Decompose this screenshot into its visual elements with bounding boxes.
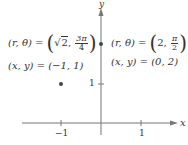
y-tick-label-1: 1: [89, 79, 95, 88]
sqrt-symbol: √2: [54, 38, 68, 48]
point-neg1-1: [59, 82, 63, 86]
denominator: 2: [171, 44, 178, 52]
point1-cartesian-label: (x, y) = (−1, 1): [8, 61, 83, 71]
point-0-2: [99, 42, 103, 46]
x-tick-label-1: 1: [139, 129, 145, 138]
point2-theta-fraction: π 2: [171, 35, 178, 52]
denominator: 4: [75, 44, 87, 52]
x-axis-label: x: [180, 118, 186, 128]
right-paren: ): [89, 33, 97, 53]
left-paren: (: [46, 33, 54, 53]
comma: ,: [68, 38, 74, 48]
y-axis-arrow-icon: [99, 8, 104, 16]
point1-polar-label: (r, θ) = ( √2 , 3π 4 ): [8, 33, 97, 53]
right-paren: ): [179, 33, 187, 53]
point1-theta-fraction: 3π 4: [75, 35, 87, 52]
point2-cartesian-label: (x, y) = (0, 2): [111, 57, 178, 67]
point1-polar-lhs: (r, θ) =: [8, 38, 43, 48]
x-tick-label-neg1: −1: [55, 129, 68, 138]
comma: ,: [164, 38, 170, 48]
polar-coordinate-diagram: y x −1 1 1 (r, θ) = ( √2 , 3π 4 ) (x, y)…: [0, 0, 188, 145]
y-axis-label: y: [99, 0, 104, 9]
point2-polar-lhs: (r, θ) =: [111, 38, 146, 48]
x-axis-arrow-icon: [170, 121, 178, 126]
axes-plot: [0, 0, 188, 145]
point2-polar-label: (r, θ) = ( 2 , π 2 ): [111, 33, 187, 53]
radicand: 2: [61, 36, 68, 48]
left-paren: (: [149, 33, 157, 53]
